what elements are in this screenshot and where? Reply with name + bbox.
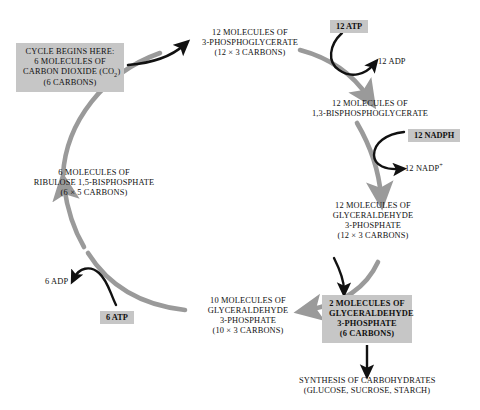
node-10-glyceraldehyde-3-phosphate: 10 MOLECULES OF GLYCERALDEHYDE 3-PHOSPHA…: [193, 296, 303, 336]
rubp-line-2: RIBULOSE 1,5-BISPHOSPHATE: [24, 178, 164, 188]
g3p2-line-1: 2 MOLECULES OF: [329, 299, 405, 309]
g3p10-line-2: GLYCERALDEHYDE: [193, 306, 303, 316]
co2-line-4: (6 CARBONS): [23, 78, 117, 88]
node-ribulose-1-5-bisphosphate: 6 MOLECULES OF RIBULOSE 1,5-BISPHOSPHATE…: [24, 168, 164, 198]
g3p10-line-4: (10 × 3 CARBONS): [193, 326, 303, 336]
node-6-adp: 6 ADP: [45, 277, 68, 287]
g3p2-line-4: (6 CARBONS): [329, 329, 405, 339]
rubp-line-3: (6 × 5 CARBONS): [24, 188, 164, 198]
node-6-atp: 6 ATP: [100, 306, 134, 325]
pga-line-1: 12 MOLECULES OF: [195, 28, 305, 38]
g3p10-line-3: 3-PHOSPHATE: [193, 316, 303, 326]
pga-line-3: (12 × 3 CARBONS): [195, 48, 305, 58]
cycle-arc-bpg-to-g3p: [357, 123, 381, 196]
adp-6-label: 6 ADP: [45, 277, 68, 286]
node-12-adp: 12 ADP: [378, 57, 406, 67]
node-1-3-bisphosphoglycerate: 12 MOLECULES OF 1,3-BISPHOSPHOGLYCERATE: [300, 99, 440, 119]
g3p12-line-4: (12 × 3 CARBONS): [318, 231, 428, 241]
atp-6-label: 6 ATP: [100, 311, 134, 324]
adp-12-label: 12 ADP: [378, 57, 406, 66]
node-12-nadph: 12 NADPH: [408, 124, 460, 143]
g3p2-line-2: GLYCERALDEHYDE: [329, 309, 405, 319]
co2-line-3-post: ): [117, 67, 120, 76]
bpg-line-1: 12 MOLECULES OF: [300, 99, 440, 109]
g3p2-line-3: 3-PHOSPHATE: [329, 319, 405, 329]
cycle-arc-pga-to-bpg: [300, 50, 368, 97]
node-3-phosphoglycerate: 12 MOLECULES OF 3-PHOSPHOGLYCERATE (12 ×…: [195, 28, 305, 58]
nadp-12-superscript: +: [439, 161, 443, 168]
atp-12-label: 12 ATP: [330, 20, 368, 33]
arrow-co2-input: [128, 45, 184, 65]
rubp-line-1: 6 MOLECULES OF: [24, 168, 164, 178]
node-co2-input: CYCLE BEGINS HERE: 6 MOLECULES OF CARBON…: [16, 43, 124, 92]
node-carbohydrate-synthesis: SYNTHESIS OF CARBOHYDRATES (GLUCOSE, SUC…: [299, 376, 435, 396]
bpg-line-2: 1,3-BISPHOSPHOGLYCERATE: [300, 109, 440, 119]
co2-line-3: CARBON DIOXIDE (CO2): [23, 67, 117, 78]
calvin-cycle-diagram: CYCLE BEGINS HERE: 6 MOLECULES OF CARBON…: [0, 0, 480, 410]
g3p2-box: 2 MOLECULES OF GLYCERALDEHYDE 3-PHOSPHAT…: [322, 295, 412, 343]
synthesis-line-2: (GLUCOSE, SUCROSE, STARCH): [299, 386, 435, 396]
nadp-12-label: 12 NADP: [405, 164, 439, 173]
g3p10-line-1: 10 MOLECULES OF: [193, 296, 303, 306]
node-12-nadp-plus: 12 NADP+: [405, 161, 443, 174]
g3p12-line-1: 12 MOLECULES OF: [318, 201, 428, 211]
synthesis-line-1: SYNTHESIS OF CARBOHYDRATES: [299, 376, 435, 386]
co2-line-2: 6 MOLECULES OF: [23, 57, 117, 67]
co2-line-1: CYCLE BEGINS HERE:: [23, 47, 117, 57]
node-2-glyceraldehyde-3-phosphate: 2 MOLECULES OF GLYCERALDEHYDE 3-PHOSPHAT…: [322, 295, 412, 343]
cycle-arc-g3p10-to-rubp: [88, 253, 185, 310]
nadph-12-label: 12 NADPH: [408, 129, 460, 142]
node-12-glyceraldehyde-3-phosphate: 12 MOLECULES OF GLYCERALDEHYDE 3-PHOSPHA…: [318, 201, 428, 241]
co2-input-box: CYCLE BEGINS HERE: 6 MOLECULES OF CARBON…: [16, 43, 124, 92]
g3p12-line-3: 3-PHOSPHATE: [318, 221, 428, 231]
arrow-12atp-to-12adp: [331, 33, 374, 75]
arrow-12nadph-to-12nadp: [374, 132, 404, 169]
arrow-branch-to-2g3p: [334, 258, 344, 290]
g3p12-line-2: GLYCERALDEHYDE: [318, 211, 428, 221]
node-12-atp: 12 ATP: [330, 15, 368, 34]
co2-line-3-pre: CARBON DIOXIDE (CO: [23, 67, 114, 76]
pga-line-2: 3-PHOSPHOGLYCERATE: [195, 38, 305, 48]
arrow-6atp-to-6adp: [74, 268, 116, 305]
